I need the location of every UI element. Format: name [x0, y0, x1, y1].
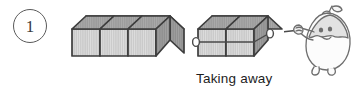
item-number-badge: 1	[13, 9, 47, 43]
foot-right-icon	[328, 68, 336, 75]
item-number-label: 1	[26, 18, 35, 35]
three-cubes-drawing	[66, 12, 186, 68]
hand-icon	[294, 25, 303, 34]
cube-group-three	[66, 12, 186, 68]
eye-left-icon	[319, 27, 323, 32]
character-shell-shading	[309, 15, 348, 38]
pulling-character	[284, 4, 360, 78]
character-drawing	[284, 4, 360, 78]
caption-taking-away: Taking away	[196, 71, 316, 86]
cube-group-two-roped	[192, 12, 288, 68]
leaf-icon-right	[332, 6, 342, 12]
worksheet-illustration-page: 1	[0, 0, 363, 96]
two-cubes-drawing	[192, 12, 288, 68]
eye-right-icon	[328, 26, 332, 31]
